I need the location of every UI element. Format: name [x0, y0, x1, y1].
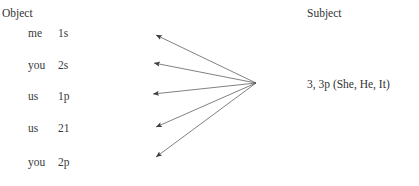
agreement-arrow	[156, 35, 256, 83]
object-feature-label: 2s	[58, 58, 68, 72]
object-row: you2s	[28, 58, 138, 72]
object-person-label: us	[28, 121, 58, 135]
subject-value-label: 3, 3p (She, He, It)	[307, 77, 390, 91]
agreement-arrow	[156, 83, 256, 157]
object-person-label: you	[28, 155, 58, 169]
agreement-arrow	[156, 83, 256, 127]
object-row: us1p	[28, 89, 138, 103]
object-feature-label: 2p	[58, 155, 70, 169]
subject-column-heading: Subject	[307, 7, 342, 20]
object-person-label: us	[28, 89, 58, 103]
agreement-diagram: Object Subject me1s you2s us1p us21 you2…	[0, 0, 419, 186]
object-feature-label: 1p	[58, 89, 70, 103]
object-feature-label: 21	[58, 121, 70, 135]
agreement-arrow	[154, 63, 256, 83]
object-row: us21	[28, 121, 138, 135]
object-row: me1s	[28, 26, 138, 40]
object-person-label: you	[28, 58, 58, 72]
object-column-heading: Object	[2, 7, 33, 20]
object-row: you2p	[28, 155, 138, 169]
object-feature-label: 1s	[58, 26, 68, 40]
object-person-label: me	[28, 26, 58, 40]
agreement-arrow	[153, 83, 256, 94]
